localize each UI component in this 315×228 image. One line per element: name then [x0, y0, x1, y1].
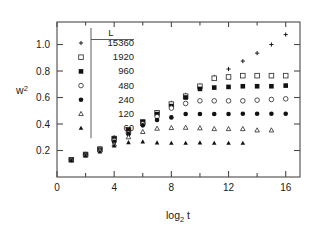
x-tick-label: 8	[169, 182, 175, 193]
y-tick-label: 0.8	[36, 66, 50, 77]
data-point	[283, 97, 288, 102]
legend-label-240: 240	[118, 94, 134, 105]
legend-label-60: 60	[123, 122, 134, 133]
data-point	[269, 73, 274, 78]
y-tick-label: 0.2	[36, 145, 50, 156]
legend-marker-240	[79, 98, 84, 103]
y-tick-label: 0.4	[36, 119, 50, 130]
data-point	[155, 118, 160, 123]
data-point	[241, 73, 246, 78]
figure-container: 0481216 0.20.40.60.81.0 log2 t w2 L15360…	[0, 0, 315, 228]
legend-label-15360: 15360	[108, 37, 134, 48]
data-point	[212, 85, 217, 90]
y-tick-label: 0.6	[36, 92, 50, 103]
legend-label-120: 120	[118, 108, 134, 119]
y-tick-label: 1.0	[36, 39, 50, 50]
data-point	[255, 111, 260, 116]
data-point	[212, 76, 217, 81]
legend-marker-960	[79, 69, 84, 74]
x-tick-label: 4	[111, 182, 117, 193]
data-point	[269, 111, 274, 116]
data-point	[241, 111, 246, 116]
data-point	[183, 112, 188, 117]
data-point	[283, 83, 288, 88]
data-point	[212, 112, 217, 117]
data-point	[269, 84, 274, 89]
data-point	[226, 99, 231, 104]
data-point	[183, 101, 188, 106]
data-point	[283, 73, 288, 78]
data-point	[198, 112, 203, 117]
data-point	[169, 106, 174, 111]
data-point	[198, 99, 203, 104]
data-point	[255, 73, 260, 78]
data-point	[169, 115, 174, 120]
data-point	[198, 87, 203, 92]
data-point	[212, 99, 217, 104]
legend-marker-1920	[79, 55, 84, 60]
legend-label-480: 480	[118, 80, 134, 91]
data-point	[183, 95, 188, 100]
data-point	[255, 98, 260, 103]
data-point	[241, 99, 246, 104]
scatter-plot: 0481216 0.20.40.60.81.0 log2 t w2 L15360…	[0, 0, 315, 228]
legend-label-1920: 1920	[113, 51, 134, 62]
data-point	[255, 84, 260, 89]
data-point	[283, 111, 288, 116]
data-point	[226, 75, 231, 80]
legend-marker-480	[79, 83, 84, 88]
data-point	[269, 97, 274, 102]
data-point	[226, 112, 231, 117]
x-tick-label: 16	[280, 182, 292, 193]
x-tick-label: 12	[223, 182, 235, 193]
data-point	[241, 84, 246, 89]
data-point	[140, 123, 145, 128]
x-tick-label: 0	[54, 182, 60, 193]
legend-label-960: 960	[118, 65, 134, 76]
data-point	[226, 85, 231, 90]
